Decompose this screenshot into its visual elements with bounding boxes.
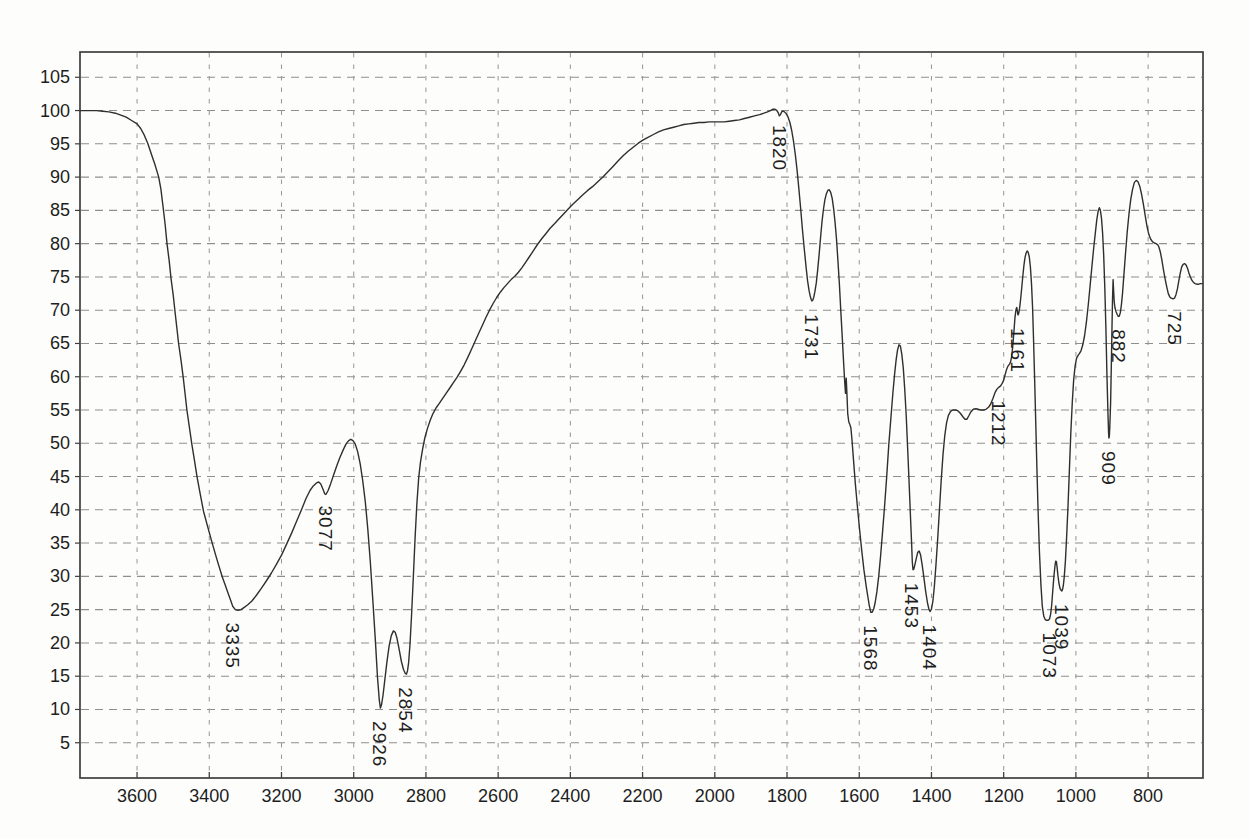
peak-label-text-3335: 3335 [222,623,243,669]
ir-spectrum-chart: 3600340032003000280026002400220020001800… [0,0,1250,839]
y-axis-tick-label: 50 [50,433,70,453]
peak-label-text-725: 725 [1164,311,1185,346]
x-axis-tick-label: 1400 [911,786,951,806]
peak-label-3077: 3077 [315,506,336,552]
peak-label-text-1568: 1568 [860,625,881,671]
peak-label-725: 725 [1164,311,1185,346]
peak-label-1404: 1404 [919,625,940,671]
peak-label-text-882: 882 [1108,329,1129,364]
x-axis-tick-label: 3200 [261,786,301,806]
peak-label-2926: 2926 [369,721,390,767]
plot-border [80,52,1203,778]
peak-label-909: 909 [1098,451,1119,486]
y-axis-tick-label: 95 [50,134,70,154]
x-axis-tick-label: 3600 [117,786,157,806]
y-axis-tick-label: 65 [50,333,70,353]
x-axis-tick-label: 2400 [550,786,590,806]
peak-label-text-1453: 1453 [901,583,922,629]
peak-label-1161: 1161 [1007,328,1028,373]
y-axis-tick-label: 70 [50,300,70,320]
y-axis-tick-label: 60 [50,367,70,387]
y-axis-tick-label: 45 [50,467,70,487]
peak-label-text-1820: 1820 [769,125,790,171]
y-axis-tick-label: 15 [50,666,70,686]
peak-label-text-2926: 2926 [369,721,390,767]
spectrum-curve [80,109,1202,708]
peak-label-text-1161: 1161 [1007,328,1028,373]
y-axis-tick-label: 90 [50,167,70,187]
y-axis-tick-label: 75 [50,267,70,287]
x-axis-tick-label: 2800 [406,786,446,806]
peak-label-text-2854: 2854 [395,687,416,733]
x-axis-tick-label: 1000 [1056,786,1096,806]
y-axis-tick-label: 105 [40,67,70,87]
peak-label-2854: 2854 [395,687,416,733]
peak-label-text-1039: 1039 [1051,604,1072,650]
peak-label-3335: 3335 [222,623,243,669]
x-axis-tick-label: 2200 [623,786,663,806]
peak-label-text-1404: 1404 [919,625,940,671]
peak-label-1731: 1731 [801,314,822,360]
x-axis-tick-label: 3000 [334,786,374,806]
y-axis-tick-label: 40 [50,500,70,520]
y-axis-tick-label: 10 [50,699,70,719]
x-axis-tick-label: 1800 [767,786,807,806]
peak-label-1453: 1453 [901,583,922,629]
peak-label-882: 882 [1108,329,1129,364]
x-axis-tick-label: 2600 [478,786,518,806]
peak-label-1568: 1568 [860,625,881,671]
peak-label-text-909: 909 [1098,451,1119,486]
y-axis-tick-label: 25 [50,600,70,620]
peak-label-1212: 1212 [988,400,1009,446]
x-axis-tick-label: 2000 [695,786,735,806]
peak-label-text-3077: 3077 [315,506,336,552]
peak-label-text-1731: 1731 [801,314,822,360]
x-axis-tick-label: 1600 [839,786,879,806]
peak-label-1820: 1820 [769,125,790,171]
ir-spectrum-figure: 3600340032003000280026002400220020001800… [0,0,1250,839]
y-axis-tick-label: 100 [40,101,70,121]
y-axis-tick-label: 55 [50,400,70,420]
peak-label-1039: 1039 [1051,604,1072,650]
y-axis-tick-label: 80 [50,234,70,254]
y-axis-tick-label: 30 [50,566,70,586]
x-axis-tick-label: 3400 [189,786,229,806]
y-axis-tick-label: 35 [50,533,70,553]
x-axis-tick-label: 800 [1133,786,1163,806]
y-axis-tick-label: 5 [60,733,70,753]
y-axis-tick-label: 20 [50,633,70,653]
y-axis-tick-label: 85 [50,200,70,220]
x-axis-tick-label: 1200 [984,786,1024,806]
peak-label-text-1212: 1212 [988,400,1009,446]
